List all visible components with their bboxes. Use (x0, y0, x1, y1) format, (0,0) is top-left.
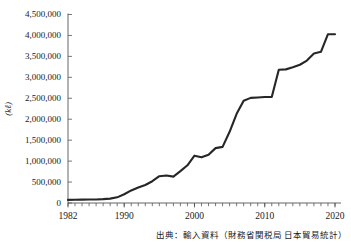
y-axis-unit-label: (kℓ) (3, 102, 13, 116)
x-axis-tick-label: 2020 (326, 211, 345, 221)
y-axis-tick-label-group: 0500,0001,000,0001,500,0002,000,0002,500… (25, 9, 62, 208)
line-chart-svg: 0500,0001,000,0001,500,0002,000,0002,500… (0, 0, 351, 244)
x-axis-tick-label: 1990 (115, 211, 134, 221)
x-axis-tick-label: 2010 (255, 211, 274, 221)
y-axis-tick-label: 2,500,000 (25, 93, 62, 103)
y-axis-tick-label: 500,000 (32, 177, 62, 187)
y-axis-tick-label: 1,000,000 (25, 156, 62, 166)
y-axis-tick-label: 3,000,000 (25, 72, 62, 82)
x-axis-tick-label: 2000 (185, 211, 204, 221)
y-axis-tick-label: 4,000,000 (25, 30, 62, 40)
x-axis-tick-label-group: 19821990200020102020 (59, 211, 345, 221)
y-axis-tick-label: 4,500,000 (25, 9, 62, 19)
chart-figure: 0500,0001,000,0001,500,0002,000,0002,500… (0, 0, 351, 244)
y-axis-tick-label: 0 (57, 198, 62, 208)
source-note: 出典：輸入資料（財務省関税局 日本貿易統計） (156, 228, 347, 240)
y-axis-tick-label: 2,000,000 (25, 114, 62, 124)
y-axis-tick-label: 1,500,000 (25, 135, 62, 145)
x-axis-tick-label: 1982 (59, 211, 78, 221)
data-series-line (68, 34, 335, 200)
x-axis-minor-tick-group (68, 203, 335, 206)
y-axis-tick-label: 3,500,000 (25, 51, 62, 61)
y-axis-tick-mark-group (68, 15, 72, 204)
